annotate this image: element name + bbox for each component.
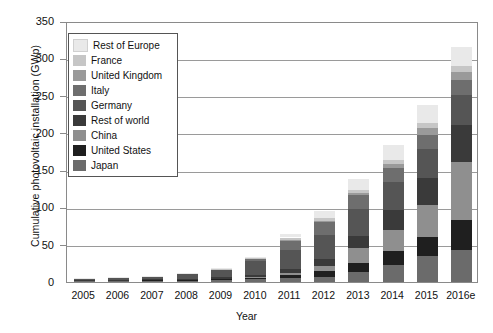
bar-segment-china (314, 266, 335, 271)
legend-label: Italy (91, 85, 109, 96)
bar-segment-united-kingdom (451, 72, 472, 81)
x-tick-label: 2010 (238, 289, 272, 301)
bar-segment-united-kingdom (314, 221, 335, 222)
legend-label: France (91, 55, 122, 66)
legend-label: Rest of Europe (93, 40, 160, 51)
bar-2006 (108, 278, 129, 282)
bar-2015 (417, 105, 438, 282)
bar-segment-united-states (417, 237, 438, 256)
bar-segment-france (245, 258, 266, 259)
x-tick-label: 2012 (306, 289, 340, 301)
legend-label: United Kingdom (91, 70, 162, 81)
y-tick-label: 100 (14, 202, 54, 213)
y-tick-label: 350 (14, 16, 54, 27)
bar-segment-france (280, 238, 301, 240)
bar-segment-germany (348, 209, 369, 236)
bar-segment-rest-of-world (451, 125, 472, 161)
bar-segment-germany (314, 235, 335, 259)
legend-item: United Kingdom (73, 68, 173, 83)
bar-2014 (383, 145, 404, 282)
x-tick-label: 2013 (341, 289, 375, 301)
bar-segment-germany (177, 274, 198, 279)
bar-segment-germany (211, 270, 232, 277)
bar-segment-germany (108, 278, 129, 280)
bar-segment-japan (211, 280, 232, 282)
bar-segment-china (280, 273, 301, 275)
bar-segment-china (348, 248, 369, 263)
bar-segment-italy (417, 135, 438, 149)
legend-swatch-icon (73, 160, 86, 171)
bar-segment-rest-of-europe (417, 105, 438, 123)
bar-segment-germany (245, 261, 266, 274)
bar-segment-united-kingdom (383, 164, 404, 168)
bar-segment-rest-of-europe (348, 179, 369, 190)
chart-legend: Rest of EuropeFranceUnited KingdomItalyG… (68, 33, 178, 177)
bar-segment-china (451, 162, 472, 220)
bar-segment-china (417, 205, 438, 237)
bar-segment-united-states (177, 280, 198, 281)
x-tick-label: 2007 (135, 289, 169, 301)
bar-segment-germany (142, 276, 163, 279)
bar-segment-united-states (280, 275, 301, 278)
bar-segment-rest-of-world (280, 269, 301, 273)
bar-2012 (314, 211, 335, 282)
bar-segment-italy (211, 269, 232, 270)
bar-segment-united-states (142, 280, 163, 281)
bar-segment-rest-of-world (142, 279, 163, 280)
x-tick-label: 2011 (272, 289, 306, 301)
x-tick-label: 2008 (169, 289, 203, 301)
legend-swatch-icon (73, 70, 86, 81)
bar-segment-rest-of-world (211, 277, 232, 278)
bar-segment-rest-of-world (314, 259, 335, 266)
bar-segment-rest-of-europe (280, 234, 301, 237)
bar-segment-rest-of-world (177, 279, 198, 280)
bar-segment-italy (314, 222, 335, 234)
bar-segment-united-states (451, 220, 472, 250)
bar-segment-japan (451, 250, 472, 282)
legend-item: United States (73, 143, 173, 158)
legend-item: Germany (73, 98, 173, 113)
bar-segment-italy (451, 80, 472, 94)
bar-segment-united-states (211, 279, 232, 280)
y-tick-label: 50 (14, 240, 54, 251)
legend-label: Rest of world (91, 115, 149, 126)
legend-item: Rest of Europe (73, 38, 173, 53)
x-tick-label: 2015 (409, 289, 443, 301)
bar-segment-rest-of-world (383, 210, 404, 230)
legend-item: Italy (73, 83, 173, 98)
legend-swatch-icon (73, 130, 86, 141)
bar-2005 (74, 279, 95, 282)
bar-segment-germany (417, 149, 438, 179)
x-tick-label: 2009 (203, 289, 237, 301)
bar-segment-united-states (245, 277, 266, 279)
bar-segment-china (245, 277, 266, 278)
bar-segment-japan (177, 280, 198, 282)
x-tick-label: 2005 (66, 289, 100, 301)
bar-segment-united-kingdom (280, 240, 301, 241)
bar-segment-united-states (383, 251, 404, 265)
bar-segment-japan (383, 265, 404, 282)
y-tick-label: 150 (14, 165, 54, 176)
bar-segment-rest-of-europe (211, 268, 232, 269)
y-tick-label: 300 (14, 53, 54, 64)
bar-segment-france (417, 123, 438, 128)
bar-segment-rest-of-europe (142, 276, 163, 277)
bar-segment-rest-of-europe (245, 257, 266, 258)
y-tick-label: 0 (14, 277, 54, 288)
legend-item: Rest of world (73, 113, 173, 128)
bar-segment-rest-of-europe (108, 277, 129, 278)
legend-label: Germany (91, 100, 132, 111)
bar-segment-rest-of-europe (451, 47, 472, 67)
x-tick-label: 2006 (100, 289, 134, 301)
bar-segment-france (314, 218, 335, 221)
bar-segment-united-kingdom (348, 193, 369, 195)
bar-segment-rest-of-europe (383, 145, 404, 159)
x-axis-title: Year (0, 310, 493, 322)
legend-swatch-icon (73, 55, 86, 66)
bar-segment-italy (383, 168, 404, 182)
bar-segment-germany (74, 279, 95, 280)
legend-swatch-icon (73, 39, 88, 52)
bar-segment-united-states (348, 263, 369, 272)
bar-segment-france (383, 160, 404, 164)
bar-segment-japan (142, 281, 163, 282)
